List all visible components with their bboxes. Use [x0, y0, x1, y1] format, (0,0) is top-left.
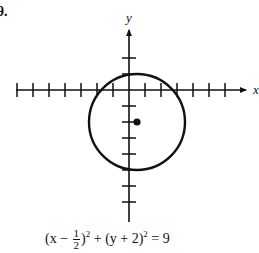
circle-equation: (x − 12)2 + (y + 2)2 = 9 — [45, 228, 170, 251]
equation-part-3: + (y + 2) — [90, 231, 143, 246]
x-axis-label: x — [252, 82, 259, 97]
equation-fraction: 12 — [73, 228, 81, 251]
fraction-denominator: 2 — [73, 240, 81, 251]
y-axis-label: y — [124, 10, 132, 25]
coordinate-plane: x y — [0, 0, 259, 253]
equation-part-4: = 9 — [148, 231, 170, 246]
circle-center-point — [133, 118, 140, 125]
equation-part-1: (x − — [45, 231, 72, 246]
